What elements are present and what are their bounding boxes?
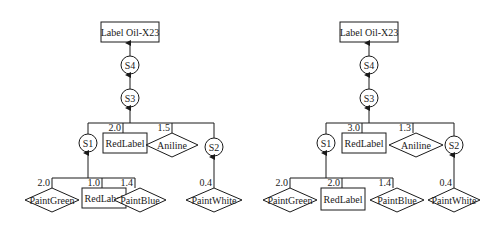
top-redlabel-text: RedLabel [106,138,145,149]
paintwhite-text: PaintWhite [192,195,238,206]
root-label-box: Label Oil-X23 [101,22,160,42]
s4-label: S4 [125,60,136,71]
s1-label: S1 [321,138,332,149]
weight-s1-redlabel: 2.0 [328,177,341,188]
weight-paintwhite: 0.4 [200,177,213,188]
s4-label: S4 [364,60,375,71]
left-diagram: Label Oil-X23 S4 S3 2.0 1.5 S1 RedLabel [25,22,242,212]
s3-label: S3 [364,93,375,104]
top-redlabel-text: RedLabel [345,138,384,149]
weight-top-redlabel: 3.0 [348,122,361,133]
weight-paintgreen: 2.0 [276,177,289,188]
weight-top-redlabel: 2.0 [109,122,122,133]
aniline-text: Aniline [401,140,432,151]
paintgreen-diamond: PaintGreen [263,188,317,212]
paintgreen-text: PaintGreen [268,195,313,206]
paintgreen-text: PaintGreen [30,195,75,206]
paintwhite-diamond: PaintWhite [428,188,480,212]
weight-aniline: 1.3 [399,122,412,133]
weight-paintblue: 1.4 [121,177,134,188]
weight-paintblue: 1.4 [379,177,392,188]
root-label-text: Label Oil-X23 [340,27,399,38]
s2-node: S2 [445,136,463,154]
root-label-box: Label Oil-X23 [340,22,399,42]
paintblue-diamond: PaintBlue [370,188,424,212]
top-redlabel-box: RedLabel [342,133,386,153]
weight-paintgreen: 2.0 [38,177,51,188]
s1-node: S1 [79,134,97,152]
s1-node: S1 [317,134,335,152]
weight-aniline: 1.5 [158,122,171,133]
paintblue-text: PaintBlue [120,195,160,206]
paintwhite-diamond: PaintWhite [186,188,242,212]
weight-paintwhite: 0.4 [440,177,453,188]
paintblue-text: PaintBlue [377,195,417,206]
weight-s1-redlabel: 1.0 [88,177,101,188]
paintgreen-diamond: PaintGreen [25,188,79,212]
s3-node: S3 [121,89,139,107]
s4-node: S4 [360,56,378,74]
right-diagram: Label Oil-X23 S4 S3 3.0 1.3 S1 RedLabel … [263,22,480,212]
s1-label: S1 [83,138,94,149]
s2-label: S2 [449,140,460,151]
s2-label: S2 [209,142,220,153]
s2-node: S2 [205,138,223,156]
s4-node: S4 [121,56,139,74]
aniline-diamond: Aniline [146,133,198,157]
s3-node: S3 [360,89,378,107]
aniline-diamond: Aniline [389,133,443,157]
root-label-text: Label Oil-X23 [101,27,160,38]
s1-redlabel-box: RedLabel [321,188,365,210]
paintwhite-text: PaintWhite [432,195,478,206]
top-redlabel-box: RedLabel [103,133,147,153]
s3-label: S3 [125,93,136,104]
aniline-text: Aniline [157,140,188,151]
s1-redlabel-text: RedLabel [324,194,363,205]
